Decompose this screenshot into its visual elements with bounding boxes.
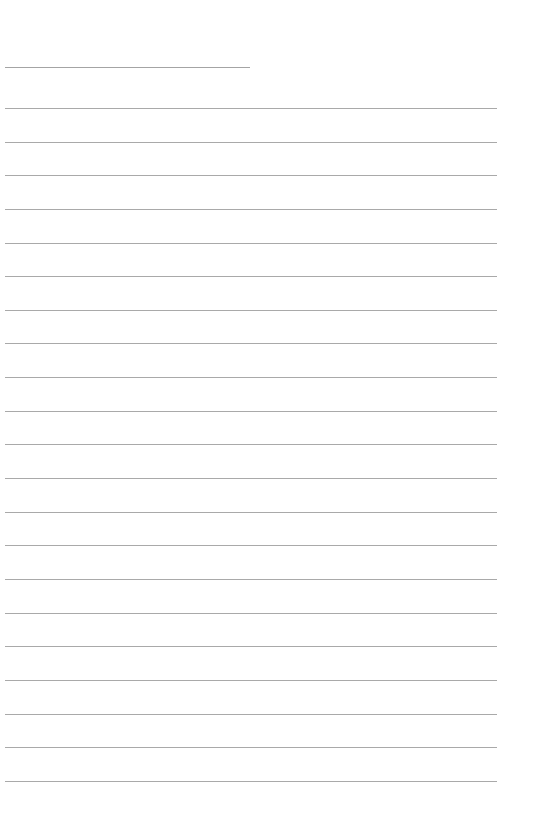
writing-line (5, 276, 497, 277)
writing-line (5, 747, 497, 748)
writing-line (5, 613, 497, 614)
lined-paper-page (0, 0, 536, 830)
writing-line (5, 209, 497, 210)
writing-line (5, 108, 497, 109)
writing-line (5, 579, 497, 580)
writing-line (5, 680, 497, 681)
writing-line (5, 343, 497, 344)
writing-line (5, 142, 497, 143)
writing-line (5, 478, 497, 479)
writing-line (5, 646, 497, 647)
writing-line (5, 310, 497, 311)
writing-line (5, 175, 497, 176)
writing-line (5, 545, 497, 546)
title-line (5, 67, 250, 68)
writing-line (5, 243, 497, 244)
writing-line (5, 781, 497, 782)
writing-line (5, 512, 497, 513)
writing-line (5, 411, 497, 412)
writing-line (5, 377, 497, 378)
writing-line (5, 714, 497, 715)
writing-line (5, 444, 497, 445)
